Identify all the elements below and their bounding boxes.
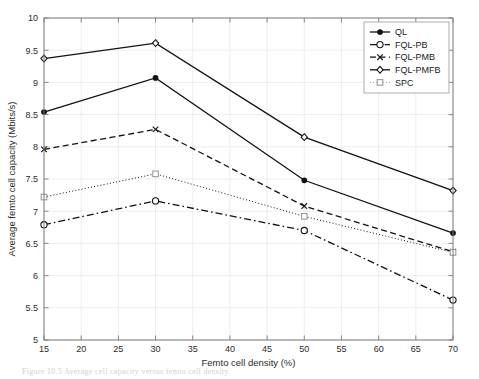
x-tick-label: 65: [411, 344, 421, 354]
x-tick-label: 70: [448, 344, 458, 354]
x-tick-label: 55: [336, 344, 346, 354]
x-tick-label: 15: [39, 344, 49, 354]
legend-label: QL: [395, 27, 407, 37]
x-tick-label: 20: [76, 344, 86, 354]
legend-label: FQL-PMFB: [395, 65, 441, 75]
y-tick-label: 6: [33, 271, 38, 281]
legend-marker-icon: [377, 80, 383, 86]
y-tick-label: 5.5: [25, 303, 38, 313]
y-tick-label: 7.5: [25, 174, 38, 184]
figure-container: 15202530354045505560657055.566.577.588.5…: [0, 0, 479, 379]
y-tick-label: 8: [33, 142, 38, 152]
x-tick-label: 60: [374, 344, 384, 354]
y-tick-label: 9: [33, 78, 38, 88]
y-tick-label: 7: [33, 207, 38, 217]
legend-label: FQL-PB: [395, 40, 428, 50]
y-tick-label: 10: [28, 13, 38, 23]
chart-legend[interactable]: QLFQL-PBFQL-PMBFQL-PMFBSPC: [364, 22, 449, 93]
line-chart: 15202530354045505560657055.566.577.588.5…: [0, 0, 479, 379]
y-axis-title: Average femto cell capacity (Mbits/s): [6, 101, 17, 256]
y-tick-label: 6.5: [25, 239, 38, 249]
x-tick-label: 35: [188, 344, 198, 354]
y-tick-label: 9.5: [25, 46, 38, 56]
legend-marker-icon: [378, 30, 383, 35]
x-tick-label: 40: [225, 344, 235, 354]
x-tick-label: 25: [113, 344, 123, 354]
x-tick-label: 50: [299, 344, 309, 354]
figure-caption: Figure 10.5 Average cell capacity versus…: [22, 367, 230, 376]
legend-label: FQL-PMB: [395, 52, 435, 62]
y-tick-label: 5: [33, 335, 38, 345]
legend-label: SPC: [395, 78, 414, 88]
x-tick-label: 30: [151, 344, 161, 354]
legend-marker-icon: [377, 42, 383, 48]
x-tick-label: 45: [262, 344, 272, 354]
y-tick-label: 8.5: [25, 110, 38, 120]
